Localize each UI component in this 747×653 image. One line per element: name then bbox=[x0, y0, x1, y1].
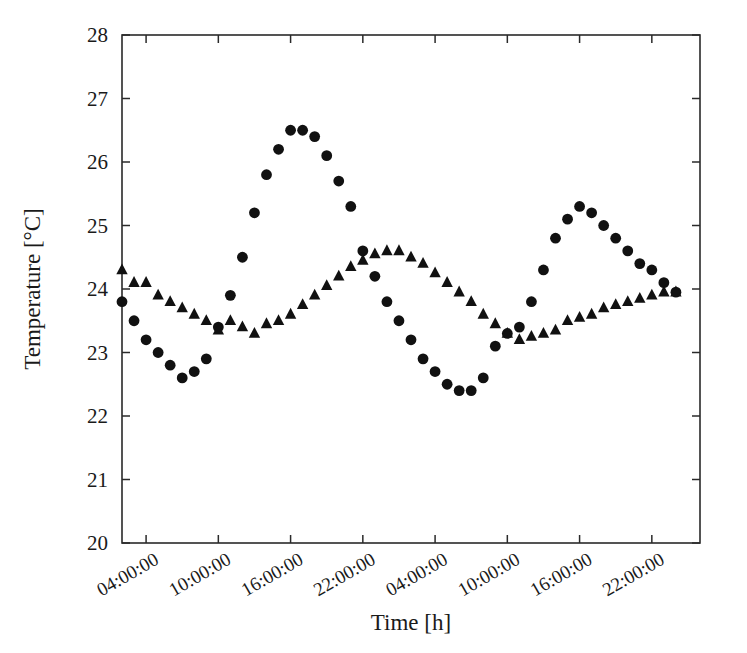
y-tick-label: 26 bbox=[87, 150, 108, 174]
data-point-circle bbox=[382, 296, 393, 307]
data-point-circle bbox=[177, 373, 188, 384]
scatter-plot: 202122232425262728 04:00:0010:00:0016:00… bbox=[0, 0, 747, 653]
data-point-circle bbox=[562, 214, 573, 225]
data-point-circle bbox=[430, 366, 441, 377]
data-point-circle bbox=[442, 379, 453, 390]
data-point-circle bbox=[309, 131, 320, 142]
data-point-circle bbox=[237, 252, 248, 263]
data-point-circle bbox=[333, 176, 344, 187]
data-point-circle bbox=[598, 220, 609, 231]
y-tick-label: 20 bbox=[87, 531, 108, 555]
y-tick-label: 21 bbox=[87, 468, 108, 492]
data-point-circle bbox=[273, 144, 284, 155]
data-point-circle bbox=[285, 125, 296, 136]
data-point-circle bbox=[634, 258, 645, 269]
data-point-circle bbox=[454, 385, 465, 396]
data-point-circle bbox=[466, 385, 477, 396]
data-point-circle bbox=[345, 201, 356, 212]
data-point-circle bbox=[646, 265, 657, 276]
data-point-circle bbox=[610, 233, 621, 244]
data-point-circle bbox=[478, 373, 489, 384]
y-tick-label: 22 bbox=[87, 404, 108, 428]
figure-background bbox=[0, 0, 747, 653]
data-point-circle bbox=[153, 347, 164, 358]
data-point-circle bbox=[201, 353, 212, 364]
data-point-circle bbox=[129, 315, 140, 326]
y-tick-label: 27 bbox=[87, 87, 108, 111]
data-point-circle bbox=[117, 296, 128, 307]
data-point-circle bbox=[297, 125, 308, 136]
data-point-circle bbox=[550, 233, 561, 244]
data-point-circle bbox=[165, 360, 176, 371]
data-point-circle bbox=[321, 150, 332, 161]
data-point-circle bbox=[189, 366, 200, 377]
data-point-circle bbox=[514, 322, 525, 333]
data-point-circle bbox=[261, 169, 272, 180]
data-point-circle bbox=[394, 315, 405, 326]
chart-figure: 202122232425262728 04:00:0010:00:0016:00… bbox=[0, 0, 747, 653]
data-point-circle bbox=[406, 334, 417, 345]
data-point-circle bbox=[225, 290, 236, 301]
y-axis-title: Temperature [°C] bbox=[20, 208, 45, 369]
data-point-circle bbox=[490, 341, 501, 352]
y-tick-label: 23 bbox=[87, 341, 108, 365]
x-axis-title: Time [h] bbox=[371, 610, 451, 635]
data-point-circle bbox=[526, 296, 537, 307]
y-tick-label: 24 bbox=[87, 277, 109, 301]
data-point-circle bbox=[622, 246, 633, 257]
data-point-circle bbox=[538, 265, 549, 276]
y-tick-label: 25 bbox=[87, 214, 108, 238]
y-tick-label: 28 bbox=[87, 23, 108, 47]
data-point-circle bbox=[249, 207, 260, 218]
data-point-circle bbox=[586, 207, 597, 218]
data-point-circle bbox=[141, 334, 152, 345]
data-point-circle bbox=[574, 201, 585, 212]
data-point-circle bbox=[369, 271, 380, 282]
data-point-circle bbox=[418, 353, 429, 364]
